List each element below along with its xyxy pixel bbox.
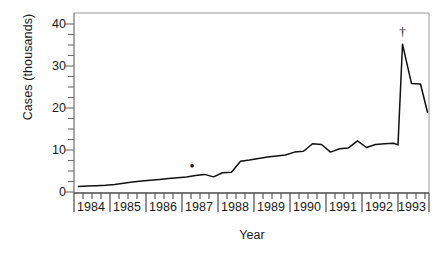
asterisk-marker-icon: • xyxy=(190,158,195,173)
plot-frame xyxy=(74,13,429,193)
dagger-marker-icon: † xyxy=(399,24,406,39)
chart-figure: Cases (thousands) Year 40 30 20 10 0 198… xyxy=(0,0,446,263)
case-count-series-line xyxy=(79,44,428,186)
y-axis-ticks xyxy=(65,24,74,192)
x-axis-year-separators xyxy=(74,193,429,212)
chart-plot-area: • † xyxy=(0,0,446,263)
